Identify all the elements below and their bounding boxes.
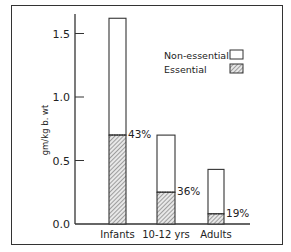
legend-swatch-hatched: [230, 64, 243, 73]
percent-label: 19%: [226, 207, 249, 219]
bar-non-essential: [109, 18, 126, 135]
legend: Non-essentialEssential: [164, 50, 243, 75]
percent-label: 36%: [177, 185, 200, 197]
category-label: Infants: [100, 229, 134, 240]
bar-essential: [208, 214, 224, 224]
bar-non-essential: [157, 135, 175, 192]
percent-label: 43%: [128, 128, 151, 140]
y-tick-label: 1.5: [53, 28, 71, 41]
bar-essential: [109, 135, 126, 224]
stacked-bar-chart: 0.00.51.01.5gm/kg b. wt 43%Infants36%10-…: [0, 0, 291, 252]
category-label: 10-12 yrs: [142, 229, 189, 240]
bar-non-essential: [208, 169, 224, 213]
y-tick-label: 0.5: [53, 155, 71, 168]
y-axis-label: gm/kg b. wt: [40, 104, 50, 155]
y-tick-label: 1.0: [53, 91, 71, 104]
category-label: Adults: [200, 229, 231, 240]
legend-label: Non-essential: [164, 50, 229, 61]
legend-label: Essential: [164, 64, 207, 75]
bar-essential: [157, 192, 175, 224]
y-tick-label: 0.0: [53, 218, 71, 231]
legend-swatch-open: [230, 50, 243, 59]
